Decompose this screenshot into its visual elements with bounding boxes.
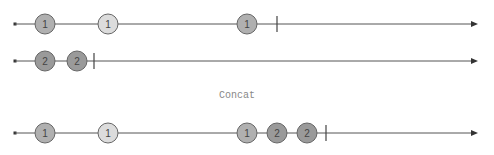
marble: 2 — [297, 123, 317, 143]
marble-value: 1 — [105, 19, 111, 30]
marble: 2 — [267, 123, 287, 143]
marble-value: 1 — [105, 128, 111, 139]
marble-value: 2 — [304, 128, 310, 139]
marble-value: 1 — [42, 128, 48, 139]
timeline-result: 11122 — [14, 123, 479, 143]
marble: 2 — [35, 51, 55, 71]
marble-diagram: 1112211122 — [0, 0, 494, 155]
arrow-head-icon — [471, 58, 478, 64]
marble-value: 1 — [244, 19, 250, 30]
operator-label: Concat — [219, 90, 255, 101]
marble: 1 — [35, 14, 55, 34]
marble-value: 2 — [42, 56, 48, 67]
timeline-source-2: 22 — [14, 51, 479, 71]
marble-value: 2 — [74, 56, 80, 67]
marble-value: 1 — [244, 128, 250, 139]
marble: 1 — [98, 14, 118, 34]
marble: 1 — [237, 123, 257, 143]
arrow-head-icon — [471, 21, 478, 27]
marble: 1 — [98, 123, 118, 143]
marble: 1 — [35, 123, 55, 143]
marble: 1 — [237, 14, 257, 34]
arrow-head-icon — [471, 130, 478, 136]
marble: 2 — [67, 51, 87, 71]
marble-value: 2 — [274, 128, 280, 139]
marble-value: 1 — [42, 19, 48, 30]
timeline-source-1: 111 — [14, 14, 479, 34]
